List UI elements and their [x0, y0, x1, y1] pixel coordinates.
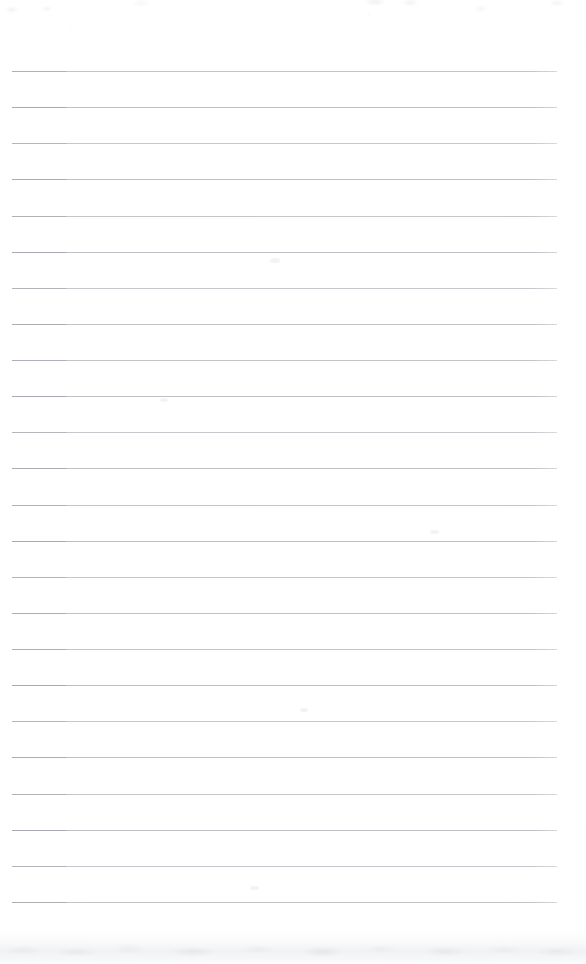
paper-blemish	[270, 258, 280, 263]
paper-blemish	[300, 708, 308, 712]
scan-bottom-shadow-band	[0, 930, 586, 964]
rule-line	[12, 721, 557, 722]
rule-line	[12, 541, 557, 542]
rule-line	[12, 468, 557, 469]
ruled-lines-layer	[0, 0, 586, 964]
rule-line	[12, 685, 557, 686]
rule-line	[12, 288, 557, 289]
rule-line	[12, 179, 557, 180]
scanned-notebook-page	[0, 0, 586, 964]
scan-top-smudge-band	[0, 0, 586, 16]
rule-line	[12, 794, 557, 795]
rule-line	[12, 902, 557, 903]
scan-speckle-noise	[0, 0, 586, 964]
rule-line	[12, 432, 557, 433]
rule-line	[12, 324, 557, 325]
rule-line	[12, 613, 557, 614]
paper-blemish	[250, 886, 259, 890]
rule-line	[12, 757, 557, 758]
paper-background	[0, 0, 586, 964]
paper-blemish	[160, 398, 168, 402]
scan-bottom-shadow-mottle	[0, 936, 586, 962]
rule-line	[12, 360, 557, 361]
rule-line	[12, 830, 557, 831]
rule-line	[12, 649, 557, 650]
rule-line	[12, 143, 557, 144]
rule-line	[12, 866, 557, 867]
rule-line	[12, 71, 557, 72]
rule-line	[12, 577, 557, 578]
paper-blemish	[430, 530, 439, 534]
rule-line	[12, 216, 557, 217]
rule-line	[12, 505, 557, 506]
rule-line	[12, 396, 557, 397]
rule-line	[12, 107, 557, 108]
rule-line	[12, 252, 557, 253]
